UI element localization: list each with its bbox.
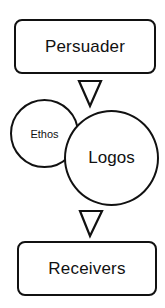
- receivers-label: Receivers: [48, 259, 125, 279]
- persuader-box: Persuader: [14, 19, 156, 74]
- persuader-label: Persuader: [45, 37, 125, 57]
- logos-circle: Logos: [64, 110, 159, 206]
- receivers-box: Receivers: [17, 241, 157, 296]
- logos-label: Logos: [88, 148, 134, 168]
- down-triangle-arrow-icon: [77, 79, 103, 109]
- down-triangle-arrow-icon: [78, 209, 104, 239]
- ethos-label: Ethos: [30, 128, 58, 140]
